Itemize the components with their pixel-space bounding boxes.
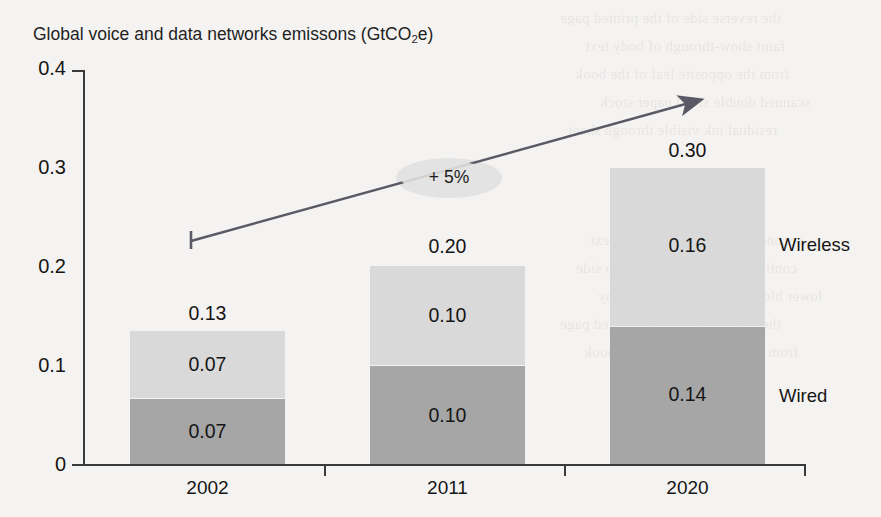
chart-figure: the reverse side of the printed page fai… [0,0,881,517]
growth-badge-label: + 5% [396,167,502,188]
growth-annotation [0,0,881,517]
